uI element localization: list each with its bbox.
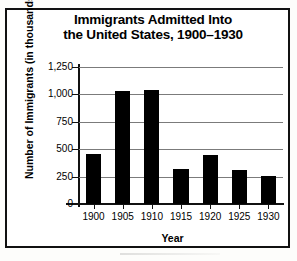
bar — [203, 155, 218, 204]
y-tick — [72, 204, 79, 205]
x-tick — [239, 204, 240, 209]
y-tick-label: 500 — [35, 144, 73, 154]
bar — [86, 154, 101, 204]
y-axis-label: Number of Immigrants (in thousands) — [23, 9, 35, 179]
bar — [115, 91, 130, 204]
chart-title: Immigrants Admitted Into the United Stat… — [24, 12, 282, 42]
bar — [232, 170, 247, 204]
y-tick — [72, 94, 79, 95]
chart-page: Immigrants Admitted Into the United Stat… — [0, 0, 297, 261]
bar — [261, 176, 276, 204]
y-tick — [72, 149, 79, 150]
scan-artifact — [120, 253, 220, 255]
bar — [173, 169, 188, 204]
bar — [144, 90, 159, 204]
y-tick — [72, 67, 79, 68]
x-axis-label: Year — [60, 232, 285, 244]
chart-title-line-1: Immigrants Admitted Into — [24, 12, 282, 27]
plot-area: 02505007501,0001,250 1900190519101915192… — [79, 67, 283, 204]
x-tick-label: 1930 — [251, 211, 285, 222]
y-tick — [72, 122, 79, 123]
x-tick — [268, 204, 269, 209]
x-tick — [181, 204, 182, 209]
x-tick — [123, 204, 124, 209]
y-tick-label: 0 — [35, 199, 73, 209]
gridline — [79, 94, 283, 95]
chart-title-line-2: the United States, 1900–1930 — [24, 27, 282, 42]
y-tick-label: 750 — [35, 117, 73, 127]
y-tick-label: 250 — [35, 172, 73, 182]
y-tick-label: 1,000 — [35, 89, 73, 99]
gridline — [79, 149, 283, 150]
x-tick — [210, 204, 211, 209]
gridline — [79, 122, 283, 123]
y-tick — [72, 177, 79, 178]
gridline — [79, 67, 283, 68]
x-tick — [94, 204, 95, 209]
y-tick-label: 1,250 — [35, 62, 73, 72]
x-tick — [152, 204, 153, 209]
